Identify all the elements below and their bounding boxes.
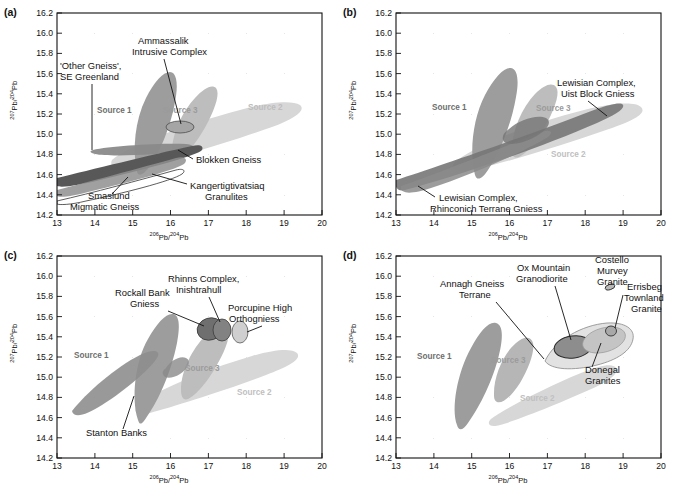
y-tick: 14.8 (375, 392, 392, 402)
y-tick: 16.0 (36, 271, 53, 281)
y-tick: 14.8 (36, 392, 53, 402)
y-tick: 14.6 (375, 170, 392, 180)
panel-c: (c) 207Pb/204Pb 206Pb/204Pb (0, 243, 338, 486)
panel-d-y-ticks (396, 256, 401, 458)
x-tick: 18 (580, 218, 590, 228)
x-tick: 14 (429, 461, 439, 471)
y-tick: 14.8 (36, 149, 53, 159)
annotation-line: Blokken Gneiss (196, 154, 261, 165)
y-tick: 14.4 (36, 433, 53, 443)
annotation-line: Uist Block Gniess (561, 88, 635, 99)
x-tick: 15 (128, 218, 138, 228)
y-tick: 14.8 (375, 149, 392, 159)
annotation-line: Migmatic Gneiss (70, 201, 140, 212)
y-tick: 15.6 (36, 69, 53, 79)
x-tick: 17 (543, 218, 553, 228)
annotation-line: 'Other Gneiss', (60, 60, 121, 71)
panel-a: (a) 207Pb/204Pb 206Pb/204Pb (0, 0, 338, 243)
annotation-line: Granulites (205, 191, 248, 202)
x-tick: 13 (52, 461, 62, 471)
x-tick: 16 (166, 218, 176, 228)
panel-d-x-ticklabels: 13 14 15 16 17 18 19 20 (391, 461, 666, 471)
panel-a-y-ticklabels: 14.2 14.4 14.6 14.8 15.0 15.2 15.4 15.6 … (36, 8, 53, 220)
annotation-line: Terrane (459, 289, 491, 300)
annotation-line: Ox Mountain (517, 262, 570, 273)
y-tick: 16.2 (36, 8, 53, 18)
y-tick: 15.6 (375, 69, 392, 79)
annotation-line: Rhinns Complex, (168, 273, 239, 284)
annotation-line: Inishtrahull (176, 284, 221, 295)
label-source-2: Source 2 (248, 103, 283, 112)
annotation-line: Orthogniess (229, 313, 280, 324)
label-source-1: Source 1 (417, 352, 452, 361)
x-tick: 15 (467, 218, 477, 228)
x-tick: 20 (317, 461, 327, 471)
y-tick: 14.6 (36, 170, 53, 180)
label-source-3: Source 3 (536, 104, 571, 113)
x-tick: 20 (656, 218, 666, 228)
annotation-line: Intrusive Complex (132, 46, 207, 57)
annotation-line: Donegal (585, 364, 620, 375)
y-tick: 16.0 (375, 271, 392, 281)
x-tick: 16 (505, 218, 515, 228)
y-tick: 14.4 (36, 190, 53, 200)
y-tick: 14.2 (36, 210, 53, 220)
label-source-2: Source 2 (237, 388, 272, 397)
label-source-3: Source 3 (185, 364, 220, 373)
panel-c-plot: Source 1 Source 3 Source 2 Rockall Bank … (0, 243, 338, 486)
x-tick: 16 (166, 461, 176, 471)
y-tick: 15.4 (36, 332, 53, 342)
annotation-line: Porcupine High (228, 302, 292, 313)
panel-a-x-ticklabels: 13 14 15 16 17 18 19 20 (52, 218, 327, 228)
annotation-ox-mountain-granodiorite: Ox Mountain Granodiorite (516, 262, 571, 340)
annotation-line: Errisbeg (627, 281, 662, 292)
annotation-line: Granodiorite (516, 273, 568, 284)
y-tick: 16.0 (36, 28, 53, 38)
annotation-line: Lewisian Complex, (439, 192, 518, 203)
panel-d-y-ticklabels: 14.2 14.4 14.6 14.8 15.0 15.2 15.4 15.6 … (375, 251, 392, 463)
y-tick: 15.6 (375, 312, 392, 322)
x-tick: 20 (656, 461, 666, 471)
x-tick: 20 (317, 218, 327, 228)
label-source-1: Source 1 (432, 103, 467, 112)
field-source-1 (455, 323, 502, 430)
x-tick: 13 (391, 218, 401, 228)
y-tick: 15.2 (375, 109, 392, 119)
y-tick: 14.4 (375, 190, 392, 200)
y-tick: 16.2 (375, 251, 392, 261)
x-tick: 18 (241, 461, 251, 471)
y-tick: 15.0 (36, 129, 53, 139)
x-tick: 13 (391, 461, 401, 471)
x-tick: 16 (505, 461, 515, 471)
label-source-3: Source 3 (491, 356, 526, 365)
panel-d: (d) 207Pb/204Pb 206Pb/204Pb (339, 243, 677, 486)
x-tick: 17 (204, 218, 214, 228)
y-tick: 14.6 (375, 413, 392, 423)
y-tick: 14.4 (375, 433, 392, 443)
y-tick: 14.2 (375, 453, 392, 463)
panel-c-x-ticks (57, 453, 322, 458)
label-source-2: Source 2 (551, 150, 586, 159)
x-tick: 15 (467, 461, 477, 471)
annotation-lewisian-complex-rhinconich-terrane-gneiss: Lewisian Complex, Rhinconich Terrane Gni… (418, 186, 543, 214)
x-tick: 18 (580, 461, 590, 471)
y-tick: 14.6 (36, 413, 53, 423)
annotation-line: Murvey (597, 265, 628, 276)
field-porcupine-high-orthogneiss (232, 321, 248, 343)
y-tick: 16.2 (36, 251, 53, 261)
x-tick: 14 (90, 461, 100, 471)
annotation-costello-murvey-granite: Costello Murvey Granite (595, 254, 629, 287)
annotation-other-gneiss-se-greenland: 'Other Gneiss', SE Greenland (60, 60, 121, 150)
label-source-3: Source 3 (163, 106, 198, 115)
annotation-line: Rockall Bank (115, 287, 170, 298)
panel-d-plot: Source 1 Source 3 Source 2 Ox Mountain G… (339, 243, 677, 486)
panel-a-plot: Source 1 Source 3 Source 2 'Other Gneiss… (0, 0, 338, 243)
x-tick: 14 (429, 218, 439, 228)
y-tick: 15.4 (375, 332, 392, 342)
y-tick: 15.8 (375, 48, 392, 58)
x-tick: 15 (128, 461, 138, 471)
y-tick: 15.8 (36, 291, 53, 301)
y-tick: 15.0 (375, 372, 392, 382)
label-source-1: Source 1 (97, 106, 132, 115)
annotation-line: Gniess (130, 298, 159, 309)
